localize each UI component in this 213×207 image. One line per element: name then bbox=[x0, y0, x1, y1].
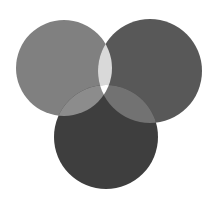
venn-diagram bbox=[0, 0, 213, 207]
